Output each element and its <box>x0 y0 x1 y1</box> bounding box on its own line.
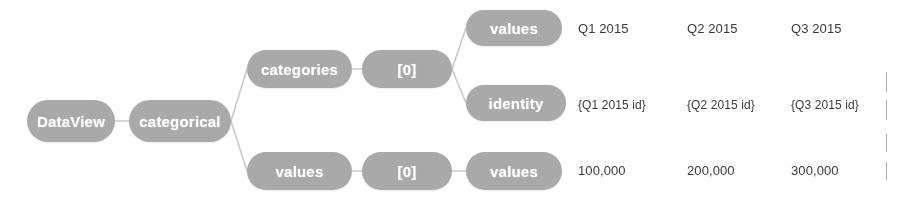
leaf-values-values-2: 300,000 <box>791 161 839 179</box>
edge-categorical-values <box>231 121 247 171</box>
edge-index-identity <box>452 69 466 103</box>
node-values-index-label: [0] <box>398 163 417 180</box>
node-values-values[interactable]: values <box>466 152 562 190</box>
node-categories-index[interactable]: [0] <box>362 50 452 88</box>
node-categorical[interactable]: categorical <box>129 100 231 142</box>
node-categories[interactable]: categories <box>247 50 352 88</box>
cropped-edge-mark-3 <box>886 134 887 152</box>
node-values-values-label: values <box>490 163 538 180</box>
cropped-edge-mark-1 <box>886 72 887 92</box>
leaf-categories-values-2: Q3 2015 <box>791 19 842 37</box>
node-categories-index-label: [0] <box>398 61 417 78</box>
leaf-categories-identity-0: {Q1 2015 id} <box>578 96 646 114</box>
node-categorical-label: categorical <box>139 113 220 130</box>
leaf-categories-values-0: Q1 2015 <box>578 19 629 37</box>
node-dataview-label: DataView <box>37 113 105 130</box>
node-categories-identity[interactable]: identity <box>466 85 566 121</box>
leaf-categories-values-1: Q2 2015 <box>687 19 738 37</box>
node-categories-values-label: values <box>490 20 538 37</box>
node-dataview[interactable]: DataView <box>27 100 115 142</box>
leaf-categories-identity-1: {Q2 2015 id} <box>687 96 755 114</box>
cropped-edge-mark-2 <box>886 100 887 120</box>
leaf-categories-identity-2: {Q3 2015 id} <box>791 96 859 114</box>
cropped-edge-mark-4 <box>886 162 887 180</box>
dataview-tree-diagram: DataView categorical categories [0] valu… <box>0 0 899 208</box>
leaf-values-values-0: 100,000 <box>578 161 626 179</box>
edge-categorical-categories <box>231 69 247 121</box>
node-values-index[interactable]: [0] <box>362 152 452 190</box>
node-categories-identity-label: identity <box>489 95 544 112</box>
node-categories-values[interactable]: values <box>466 10 562 46</box>
node-categories-label: categories <box>261 61 338 78</box>
leaf-values-values-1: 200,000 <box>687 161 735 179</box>
node-values-label: values <box>276 163 324 180</box>
node-values[interactable]: values <box>247 152 352 190</box>
edge-index-values <box>452 28 466 69</box>
